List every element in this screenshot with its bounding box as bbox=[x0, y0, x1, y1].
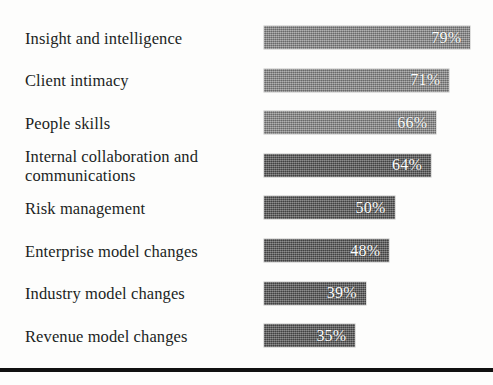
bar-track: 48% bbox=[238, 230, 493, 272]
bar-track: 64% bbox=[238, 145, 493, 187]
bar-value-label: 66% bbox=[397, 115, 427, 131]
bar-value-label: 64% bbox=[392, 157, 422, 173]
chart-row: Enterprise model changes48% bbox=[0, 230, 493, 272]
bar-value-label: 39% bbox=[327, 285, 357, 301]
bar-track: 71% bbox=[238, 60, 493, 102]
category-label: Industry model changes bbox=[0, 284, 238, 303]
bar-value-label: 71% bbox=[410, 72, 440, 88]
chart-row: Internal collaboration and communication… bbox=[0, 145, 493, 187]
bar: 66% bbox=[264, 111, 436, 134]
bar-track: 35% bbox=[238, 315, 493, 357]
bar-value-label: 35% bbox=[316, 328, 346, 344]
bar: 50% bbox=[264, 196, 395, 219]
bar-value-label: 79% bbox=[431, 30, 461, 46]
category-label: People skills bbox=[0, 114, 238, 133]
chart-row: Insight and intelligence79% bbox=[0, 17, 493, 59]
category-label: Client intimacy bbox=[0, 71, 238, 90]
bar: 48% bbox=[264, 239, 389, 262]
chart-row: People skills66% bbox=[0, 102, 493, 144]
chart-row: Client intimacy71% bbox=[0, 60, 493, 102]
bar: 64% bbox=[264, 154, 431, 177]
chart-row: Risk management50% bbox=[0, 187, 493, 229]
bar: 39% bbox=[264, 282, 366, 305]
category-label: Revenue model changes bbox=[0, 327, 238, 346]
bar: 79% bbox=[264, 26, 470, 49]
bar-track: 79% bbox=[238, 17, 493, 59]
category-label: Internal collaboration and communication… bbox=[0, 147, 238, 185]
chart-row: Revenue model changes35% bbox=[0, 315, 493, 357]
bar: 35% bbox=[264, 324, 355, 347]
bar: 71% bbox=[264, 69, 449, 92]
chart-row: Industry model changes39% bbox=[0, 273, 493, 315]
bar-track: 50% bbox=[238, 187, 493, 229]
bar-track: 39% bbox=[238, 273, 493, 315]
category-label: Insight and intelligence bbox=[0, 29, 238, 48]
bar-track: 66% bbox=[238, 102, 493, 144]
horizontal-bar-chart: Insight and intelligence79%Client intima… bbox=[0, 0, 493, 385]
bar-value-label: 50% bbox=[356, 200, 386, 216]
category-label: Risk management bbox=[0, 199, 238, 218]
bar-value-label: 48% bbox=[350, 243, 380, 259]
category-label: Enterprise model changes bbox=[0, 242, 238, 261]
bottom-divider-rule bbox=[0, 368, 493, 372]
